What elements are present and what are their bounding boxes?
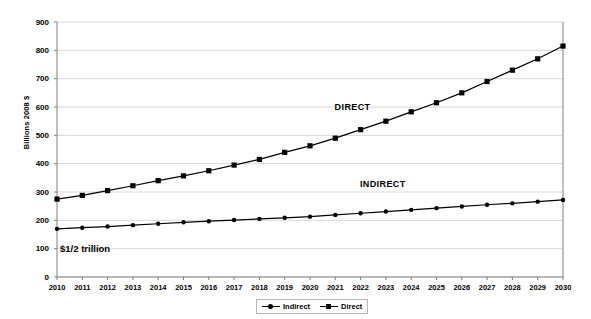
data-point-direct [156, 178, 161, 183]
data-point-indirect [257, 217, 261, 221]
data-point-direct [434, 100, 439, 105]
data-point-indirect [384, 209, 388, 213]
legend-label: Direct [341, 302, 362, 311]
x-axis-ticks [57, 277, 563, 280]
data-point-direct [130, 183, 135, 188]
annotation-direct: DIRECT [335, 102, 371, 112]
data-point-indirect [232, 218, 236, 222]
legend-marker-circle-icon [262, 303, 280, 310]
series-line-direct [57, 46, 563, 199]
data-point-direct [54, 196, 59, 201]
data-point-indirect [207, 219, 211, 223]
y-axis-tick-label: 900 [19, 18, 49, 27]
data-point-direct [257, 157, 262, 162]
legend-item-indirect: Indirect [262, 302, 310, 311]
data-point-indirect [434, 206, 438, 210]
data-point-indirect [55, 227, 59, 231]
chart-legend: IndirectDirect [256, 299, 368, 314]
data-point-direct [181, 173, 186, 178]
data-point-direct [333, 136, 338, 141]
data-point-direct [282, 150, 287, 155]
data-point-indirect [536, 199, 540, 203]
data-point-direct [510, 68, 515, 73]
x-axis-tick-label: 2030 [548, 283, 578, 292]
legend-marker-square-icon [320, 303, 338, 310]
data-point-indirect [409, 208, 413, 212]
y-axis-tick-label: 500 [19, 131, 49, 140]
y-axis-tick-label: 0 [19, 273, 49, 282]
data-point-direct [560, 43, 565, 48]
data-point-indirect [460, 204, 464, 208]
annotation-indirect: INDIRECT [360, 179, 406, 189]
data-point-indirect [333, 213, 337, 217]
plot-area [0, 0, 591, 319]
legend-item-direct: Direct [320, 302, 362, 311]
data-series-layer [54, 43, 565, 231]
y-axis-tick-label: 600 [19, 103, 49, 112]
data-point-indirect [510, 201, 514, 205]
y-axis-tick-label: 700 [19, 74, 49, 83]
data-point-indirect [105, 224, 109, 228]
y-axis-tick-label: 100 [19, 244, 49, 253]
data-point-indirect [358, 211, 362, 215]
legend-label: Indirect [283, 302, 310, 311]
data-point-indirect [485, 203, 489, 207]
data-point-indirect [181, 220, 185, 224]
data-point-indirect [283, 216, 287, 220]
data-point-direct [307, 143, 312, 148]
data-point-indirect [80, 226, 84, 230]
gridlines [57, 22, 563, 277]
data-point-indirect [156, 222, 160, 226]
data-point-direct [105, 188, 110, 193]
y-axis-tick-label: 400 [19, 159, 49, 168]
data-point-direct [383, 119, 388, 124]
y-axis-tick-label: 800 [19, 46, 49, 55]
data-point-direct [459, 90, 464, 95]
data-point-direct [409, 109, 414, 114]
data-point-indirect [131, 223, 135, 227]
data-point-direct [232, 162, 237, 167]
data-point-direct [206, 168, 211, 173]
data-point-indirect [561, 198, 565, 202]
annotation-1-2-trillion: $1/2 trillion [60, 243, 110, 254]
data-point-direct [358, 127, 363, 132]
data-point-direct [535, 56, 540, 61]
chart-container: Billions 2008 $ 010020030040050060070080… [0, 0, 591, 319]
y-axis-tick-label: 200 [19, 216, 49, 225]
axis-frame [57, 22, 563, 277]
data-point-direct [80, 193, 85, 198]
y-axis-tick-label: 300 [19, 188, 49, 197]
data-point-indirect [308, 214, 312, 218]
data-point-direct [485, 79, 490, 84]
